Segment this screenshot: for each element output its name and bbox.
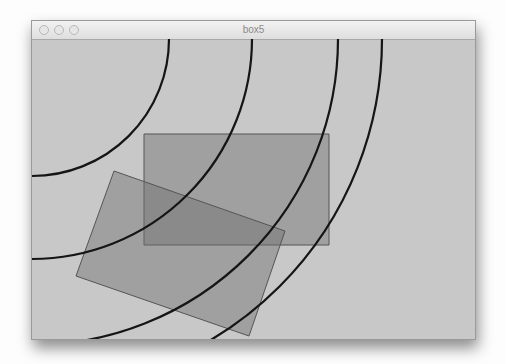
window-title: box5 [32, 24, 475, 35]
drawing-canvas[interactable] [32, 39, 475, 339]
app-window: box5 [31, 20, 476, 340]
title-bar[interactable]: box5 [32, 21, 475, 40]
